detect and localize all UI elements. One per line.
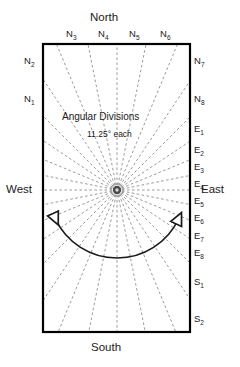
radial-ray: [43, 141, 117, 190]
sector-label-right-E1: E1: [194, 124, 204, 134]
sector-label-right-E5: E5: [194, 196, 204, 206]
center-hub: [111, 184, 123, 196]
cardinal-east: East: [201, 184, 224, 196]
radial-ray: [117, 175, 190, 190]
radial-ray: [43, 190, 117, 239]
sector-label-right-E4: E4: [194, 179, 204, 189]
cardinal-north: North: [90, 12, 118, 24]
radial-ray: [43, 190, 117, 221]
sector-label-right-N7: N7: [194, 56, 205, 66]
sector-label-right-E6: E6: [194, 213, 204, 223]
sector-label-left-N1: N1: [24, 94, 35, 104]
sector-label-right-N8: N8: [194, 94, 205, 104]
sector-label-right-E7: E7: [194, 231, 204, 241]
radial-ray: [43, 190, 117, 264]
diagram-canvas: North South East West Angular Divisions …: [0, 0, 240, 367]
radial-ray: [117, 190, 176, 332]
cardinal-west: West: [6, 184, 32, 196]
sector-label-top-N5: N5: [129, 29, 140, 39]
sector-label-top-N4: N4: [98, 29, 109, 39]
sector-label-left-N2: N2: [24, 56, 35, 66]
radial-ray: [117, 190, 190, 263]
sector-label-right-S2: S2: [194, 314, 204, 324]
radial-ray: [58, 190, 117, 332]
radial-ray: [43, 159, 117, 190]
radial-ray: [117, 160, 190, 190]
sector-label-top-N3: N3: [66, 29, 77, 39]
sector-label-right-E8: E8: [194, 248, 204, 258]
cardinal-south: South: [91, 342, 121, 354]
sector-label-right-S1: S1: [194, 277, 204, 287]
sector-label-right-E3: E3: [194, 162, 204, 172]
sector-label-right-E2: E2: [194, 145, 204, 155]
radial-ray: [117, 190, 190, 205]
radial-ray: [43, 116, 117, 190]
annotation-subtitle: 11.25° each: [87, 130, 132, 139]
radial-ray: [117, 190, 190, 220]
radial-ray: [43, 190, 117, 205]
radial-ray: [117, 117, 190, 190]
annotation-title: Angular Divisions: [62, 112, 139, 122]
sector-label-top-N6: N6: [160, 29, 171, 39]
radial-ray: [43, 175, 117, 190]
